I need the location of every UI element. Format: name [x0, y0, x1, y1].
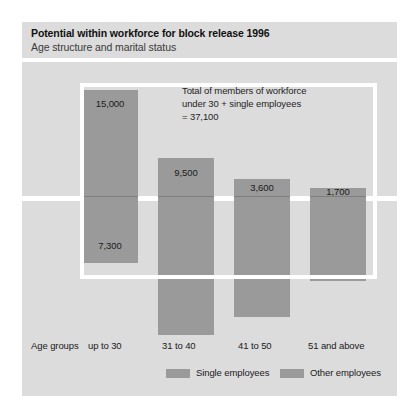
chart-subtitle: Age structure and marital status	[31, 41, 176, 53]
chart-legend: Single employeesOther employees	[22, 368, 397, 382]
axis-label: 41 to 50	[238, 340, 272, 351]
chart-title: Potential within workforce for block rel…	[31, 27, 269, 39]
annotation-text: Total of members of workforce under 30 +…	[182, 84, 362, 123]
axis-label: 31 to 40	[162, 340, 196, 351]
plot-panel: 15,0007,3009,5003,6001,700 Total of memb…	[22, 62, 397, 396]
title-band: Potential within workforce for block rel…	[22, 22, 397, 58]
legend-swatch	[166, 369, 190, 378]
annotation-line-2: under 30 + single employees	[182, 97, 362, 110]
legend-label: Single employees	[196, 367, 269, 378]
axis-label: Age groups	[31, 340, 79, 351]
annotation-line-3: = 37,100	[182, 110, 362, 123]
annotation-line-1: Total of members of workforce	[182, 84, 362, 97]
legend-swatch	[280, 369, 304, 378]
axis-label: 51 and above	[308, 340, 364, 351]
legend-label: Other employees	[310, 367, 381, 378]
axis-label: up to 30	[88, 340, 122, 351]
x-axis-labels: Age groupsup to 3031 to 4041 to 5051 and…	[22, 340, 397, 356]
chart-figure: Potential within workforce for block rel…	[0, 0, 418, 416]
